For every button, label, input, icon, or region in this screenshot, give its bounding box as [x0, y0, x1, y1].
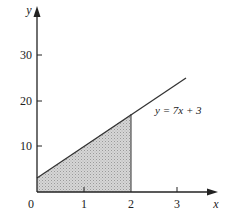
x-tick-label-1: 1: [81, 197, 87, 211]
shaded-region: [37, 114, 131, 192]
chart: 10 20 30 0 1 2 3 y x y = 7x + 3: [0, 0, 229, 220]
y-tick-label-20: 20: [20, 94, 32, 108]
x-axis-label: x: [212, 197, 219, 211]
y-tick-label-30: 30: [20, 48, 32, 62]
x-tick-label-2: 2: [128, 197, 134, 211]
x-tick-label-3: 3: [174, 197, 180, 211]
y-tick-label-10: 10: [20, 139, 32, 153]
x-axis-arrow-icon: [207, 189, 218, 196]
equation-label: y = 7x + 3: [154, 104, 202, 116]
y-axis-arrow-icon: [34, 6, 41, 17]
x-tick-label-0: 0: [28, 197, 34, 211]
y-axis-label: y: [25, 3, 32, 17]
